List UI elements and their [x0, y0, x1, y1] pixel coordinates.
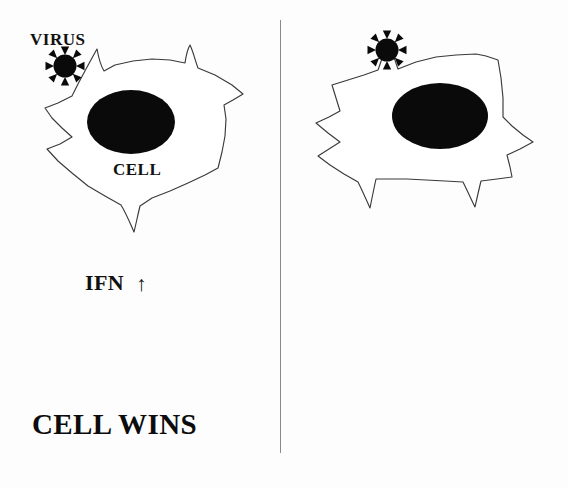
nucleus-ellipse — [392, 83, 488, 149]
interferon-virus-outcome-figure: VIRUS CELL IFN↑ CELL WINS — [0, 0, 568, 488]
cell-diagram-right — [288, 18, 568, 243]
virus-label: VIRUS — [30, 30, 85, 50]
cell-diagram-left — [0, 18, 280, 243]
panel-virus-wins: VIRUS CELL IFN + IFN antagonist VIRUS WI… — [288, 0, 568, 488]
panel-cell-wins: VIRUS CELL IFN↑ CELL WINS — [0, 0, 280, 488]
nucleus-ellipse — [87, 90, 175, 154]
panel-divider — [280, 20, 281, 453]
cell-label: CELL — [113, 160, 161, 180]
virus-spiky-icon — [368, 31, 407, 70]
verdict-cell-wins: CELL WINS — [32, 408, 197, 441]
caption-main-text: IFN — [85, 270, 124, 295]
caption-ifn-up: IFN↑ — [85, 270, 147, 297]
up-arrow-icon: ↑ — [124, 272, 147, 296]
virus-spiky-icon — [46, 47, 85, 86]
